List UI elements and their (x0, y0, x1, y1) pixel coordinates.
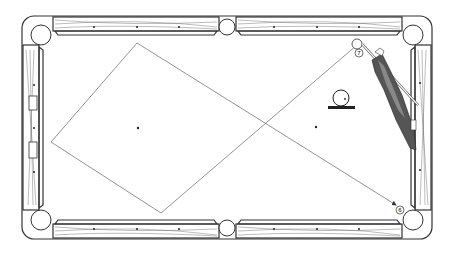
pocket-bottom-left (31, 210, 51, 230)
pocket-top-left (31, 25, 51, 45)
cue-ball (352, 39, 362, 49)
rail-diamonds (33, 26, 421, 230)
pocket-top-middle (219, 19, 235, 35)
table-frame (22, 16, 432, 239)
pocket-bottom-middle (219, 220, 235, 236)
pocket-top-right (403, 25, 423, 45)
cue-ball-spin-icon (328, 90, 355, 109)
shot-path (51, 43, 396, 213)
pockets (31, 19, 423, 236)
cue-stick-and-arm (362, 44, 418, 150)
wood-grain (26, 20, 428, 236)
pocket-bottom-right (403, 210, 423, 230)
pool-table-diagram: 7 6 (0, 0, 454, 253)
object-ball-6: 6 (396, 206, 404, 214)
object-ball-7: 7 (355, 49, 363, 57)
table-spots (137, 126, 317, 129)
